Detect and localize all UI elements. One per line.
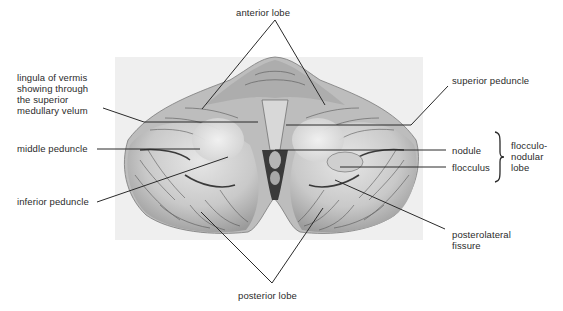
label-flocculus: flocculus (452, 162, 490, 173)
label-posterior-lobe: posterior lobe (238, 290, 297, 301)
label-posterolateral-fissure: posterolateral fissure (452, 229, 511, 251)
label-inferior-peduncle: inferior peduncle (17, 196, 89, 207)
label-superior-peduncle: superior peduncle (452, 75, 529, 86)
label-middle-peduncle: middle peduncle (17, 143, 88, 154)
label-flocculonodular-lobe: flocculo- nodular lobe (511, 140, 547, 173)
label-lingula-of-vermis: lingula of vermis showing through the su… (17, 72, 88, 116)
label-anterior-lobe: anterior lobe (236, 7, 290, 18)
label-nodule: nodule (452, 145, 481, 156)
flocculonodular-brace (493, 131, 505, 183)
cerebellum-diagram: anterior lobe lingula of vermis showing … (0, 0, 563, 311)
